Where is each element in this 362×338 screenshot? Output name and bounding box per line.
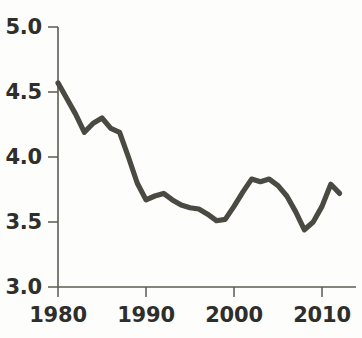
x-tick-label: 1990: [117, 303, 175, 327]
axes-group: [58, 27, 356, 287]
y-tick-label: 4.0: [5, 145, 42, 169]
chart-plot-area: 3.03.54.04.55.0 1980199020002010: [0, 0, 362, 338]
x-tick-label: 1980: [29, 303, 87, 327]
y-tick-label: 5.0: [5, 15, 42, 39]
y-tick-labels: 3.03.54.04.55.0: [5, 15, 42, 299]
x-tick-label: 2010: [293, 303, 351, 327]
x-tick-labels: 1980199020002010: [29, 303, 351, 327]
y-tick-label: 4.5: [5, 80, 42, 104]
y-tick-label: 3.0: [5, 275, 42, 299]
y-tick-label: 3.5: [5, 210, 42, 234]
data-series-line: [58, 83, 340, 230]
line-chart: 3.03.54.04.55.0 1980199020002010: [0, 0, 362, 338]
x-tick-label: 2000: [205, 303, 263, 327]
x-tick-marks: [58, 287, 322, 297]
y-tick-marks: [48, 27, 58, 287]
